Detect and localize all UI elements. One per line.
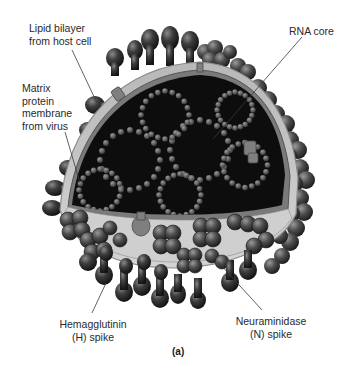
influenza-virus-diagram: Lipid bilayer from host cell Matrix prot… (0, 0, 353, 378)
label-matrix-protein: Matrix protein membrane from virus (22, 82, 72, 132)
label-neuraminidase: Neuraminidase (N) spike (228, 315, 314, 340)
figure-caption: (a) (172, 346, 184, 357)
leader-hemagglutinin (92, 283, 106, 313)
label-rna-core: RNA core (289, 25, 334, 38)
label-lipid-bilayer: Lipid bilayer from host cell (29, 22, 91, 47)
leader-lipid-bilayer (72, 50, 97, 103)
label-hemagglutinin: Hemagglutinin (H) spike (53, 318, 133, 343)
